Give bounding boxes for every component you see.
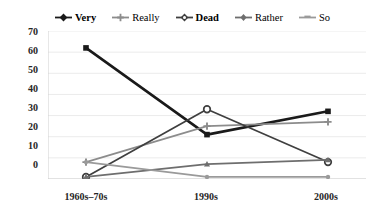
data-point: [326, 175, 330, 179]
y-tick-40: 40: [10, 84, 38, 94]
y-tick-60: 60: [10, 46, 38, 56]
y-tick-20: 20: [10, 122, 38, 132]
plot-area: [48, 31, 366, 179]
y-tick-70: 70: [10, 27, 38, 37]
y-tick-50: 50: [10, 65, 38, 75]
data-point: [325, 109, 331, 115]
data-point: [204, 106, 211, 113]
y-tick-0: 0: [10, 160, 38, 170]
line-chart: Very Really Dead: [0, 0, 385, 211]
series-line: [86, 48, 328, 135]
data-point: [203, 123, 210, 130]
data-point: [84, 160, 88, 164]
data-point: [205, 175, 209, 179]
y-tick-10: 10: [10, 141, 38, 151]
data-point: [83, 45, 89, 51]
data-point: [204, 132, 210, 138]
x-tick-1990s: 1990s: [156, 191, 256, 202]
x-tick-2000s: 2000s: [276, 191, 376, 202]
data-point: [324, 118, 331, 125]
plot-svg: [48, 31, 366, 179]
x-tick-1960s-70s: 1960s–70s: [36, 191, 136, 202]
y-tick-30: 30: [10, 103, 38, 113]
